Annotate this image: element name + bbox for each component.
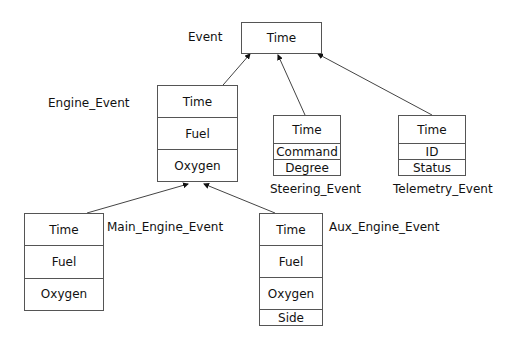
class-box-aux-engine-event: Time Fuel Oxygen Side	[259, 213, 323, 326]
field-id: ID	[399, 143, 465, 159]
class-name-engine-event: Engine_Event	[48, 96, 130, 110]
class-name-aux-engine-event: Aux_Engine_Event	[329, 220, 439, 234]
class-box-main-engine-event: Time Fuel Oxygen	[24, 213, 104, 311]
field-time: Time	[25, 214, 103, 245]
field-oxygen: Oxygen	[25, 278, 103, 310]
class-box-telemetry-event: Time ID Status	[398, 115, 466, 176]
field-time: Time	[260, 214, 322, 245]
field-fuel: Fuel	[25, 245, 103, 277]
class-box-engine-event: Time Fuel Oxygen	[157, 85, 238, 182]
class-name-main-engine-event: Main_Engine_Event	[107, 220, 223, 234]
field-time: Time	[158, 86, 237, 117]
field-side: Side	[260, 309, 322, 325]
field-degree: Degree	[274, 159, 340, 175]
class-box-event: Time	[241, 22, 322, 54]
class-name-event: Event	[188, 30, 222, 44]
field-status: Status	[399, 159, 465, 175]
field-command: Command	[274, 143, 340, 159]
field-fuel: Fuel	[260, 245, 322, 277]
field-time: Time	[274, 116, 340, 143]
field-fuel: Fuel	[158, 117, 237, 149]
field-oxygen: Oxygen	[260, 277, 322, 309]
field-time: Time	[242, 23, 321, 53]
class-box-steering-event: Time Command Degree	[273, 115, 341, 176]
field-oxygen: Oxygen	[158, 149, 237, 181]
class-name-telemetry-event: Telemetry_Event	[393, 182, 493, 196]
field-time: Time	[399, 116, 465, 143]
class-name-steering-event: Steering_Event	[270, 182, 361, 196]
